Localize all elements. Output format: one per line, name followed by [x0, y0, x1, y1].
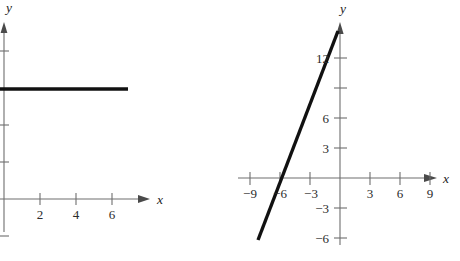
right-ytick-label-6: 6 [323, 111, 330, 126]
right-ytick-label-3: 3 [323, 141, 330, 156]
right-xtick-label-neg9: −9 [243, 186, 257, 201]
right-xtick-label-9: 9 [427, 186, 434, 201]
right-ytick-label-neg6: −6 [315, 231, 329, 246]
right-y-axis-label: y [338, 1, 346, 16]
left-xtick-label-6: 6 [109, 207, 116, 222]
left-xtick-label-2: 2 [37, 207, 44, 222]
left-y-axis-label: y [4, 0, 12, 15]
right-x-axis-label: x [442, 171, 449, 186]
chart-right-canvas: −9 −6 −3 3 6 9 12 6 3 −3 −6 x y [215, 0, 460, 261]
left-x-axis-arrowhead [138, 195, 150, 203]
right-xtick-label-6: 6 [397, 186, 404, 201]
right-xtick-label-3: 3 [367, 186, 374, 201]
right-ytick-label-neg3: −3 [315, 201, 329, 216]
left-xtick-label-4: 4 [73, 207, 80, 222]
right-xtick-label-neg6: −6 [273, 186, 287, 201]
chart-left-horizontal-line: 2 4 6 x y [0, 0, 215, 261]
chart-right-steep-line: −9 −6 −3 3 6 9 12 6 3 −3 −6 x y [215, 0, 460, 261]
chart-left-canvas: 2 4 6 x y [0, 0, 215, 261]
left-x-axis-label: x [156, 192, 163, 207]
right-ytick-label-12: 12 [316, 51, 329, 66]
figure-two-graphs: 2 4 6 x y [0, 0, 460, 261]
right-xtick-label-neg3: −3 [304, 186, 318, 201]
left-y-axis-arrowhead [1, 22, 8, 33]
